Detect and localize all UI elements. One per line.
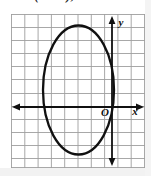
x-axis-label: x <box>131 105 138 117</box>
caption-strip: d = 2(2 + 2), b = 4 + 2 units. <box>0 0 151 9</box>
y-axis-label: y <box>117 16 124 28</box>
coordinate-graph: O x y <box>11 14 145 168</box>
origin-label: O <box>101 106 109 118</box>
caption-text: d = 2(2 + 2), b = 4 + 2 units. <box>7 0 151 4</box>
ellipse-graph-figure: d = 2(2 + 2), b = 4 + 2 units. <box>0 0 151 176</box>
graph-svg: O x y <box>11 14 145 168</box>
